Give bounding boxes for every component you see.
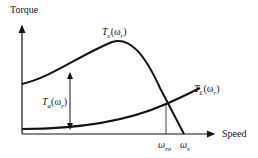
te-label: Te(ωr)	[102, 27, 127, 40]
omega-s-tick-label: ωs	[180, 140, 190, 153]
omega-ro-tick-label: ωro	[158, 140, 171, 153]
te-curve	[22, 41, 184, 134]
ta-label: Ta(ωr)	[42, 97, 67, 110]
torque-speed-diagram	[0, 0, 258, 158]
tl-label: TL(ωr)	[194, 84, 219, 97]
x-axis-label: Speed	[222, 129, 246, 139]
y-axis-label: Torque	[10, 5, 38, 15]
